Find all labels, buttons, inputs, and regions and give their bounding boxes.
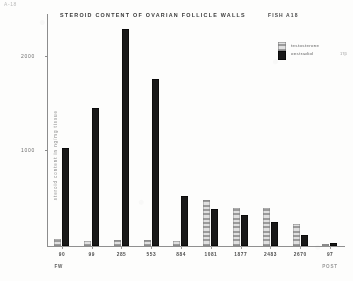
bar-oestradiol bbox=[173, 241, 180, 246]
bar-group bbox=[256, 14, 286, 246]
bar-oestradiol bbox=[203, 200, 210, 246]
x-tick bbox=[181, 246, 182, 249]
x-tick bbox=[62, 246, 63, 249]
x-tick-label: 285 bbox=[107, 252, 137, 257]
bar-group bbox=[315, 14, 345, 246]
x-tick-label: 2483 bbox=[256, 252, 286, 257]
bar-group bbox=[226, 14, 256, 246]
x-tick-label: 1877 bbox=[226, 252, 256, 257]
bar-group bbox=[166, 14, 196, 246]
corner-mark: A-18 bbox=[4, 1, 38, 7]
bar-oestradiol bbox=[84, 241, 91, 246]
bar-oestradiol bbox=[54, 239, 61, 246]
x-axis-sub-note: POST bbox=[315, 264, 345, 269]
plot-area: steroid content in ng/mg tissue bbox=[47, 14, 345, 247]
x-tick bbox=[121, 246, 122, 249]
bar-oestradiol bbox=[263, 208, 270, 246]
figure-root: A-18 STEROID CONTENT OF OVARIAN FOLLICLE… bbox=[0, 0, 353, 281]
bar-testosterone bbox=[122, 29, 129, 246]
bar-group bbox=[107, 14, 137, 246]
bar-testosterone bbox=[62, 148, 69, 246]
bar-group bbox=[136, 14, 166, 246]
bar-testosterone bbox=[271, 222, 278, 246]
x-tick bbox=[241, 246, 242, 249]
bar-testosterone bbox=[92, 108, 99, 246]
x-tick bbox=[300, 246, 301, 249]
x-tick-label: 884 bbox=[166, 252, 196, 257]
bar-testosterone bbox=[241, 215, 248, 246]
x-axis-title: FW bbox=[44, 264, 74, 269]
bar-group bbox=[285, 14, 315, 246]
bar-group bbox=[196, 14, 226, 246]
x-tick-label: 2670 bbox=[285, 252, 315, 257]
x-tick bbox=[330, 246, 331, 249]
bar-oestradiol bbox=[322, 244, 329, 246]
bar-testosterone bbox=[181, 196, 188, 246]
bar-oestradiol bbox=[144, 240, 151, 246]
x-tick-label: 97 bbox=[315, 252, 345, 257]
x-tick-label: 553 bbox=[136, 252, 166, 257]
x-tick bbox=[92, 246, 93, 249]
bar-group bbox=[77, 14, 107, 246]
bar-testosterone bbox=[330, 243, 337, 246]
x-tick-label: 99 bbox=[77, 252, 107, 257]
x-tick bbox=[211, 246, 212, 249]
x-tick bbox=[151, 246, 152, 249]
bar-testosterone bbox=[211, 209, 218, 246]
bar-testosterone bbox=[301, 235, 308, 246]
x-tick-label: 90 bbox=[47, 252, 77, 257]
bar-oestradiol bbox=[114, 240, 121, 246]
x-tick-label: 1081 bbox=[196, 252, 226, 257]
bar-oestradiol bbox=[293, 224, 300, 246]
x-tick bbox=[270, 246, 271, 249]
bar-oestradiol bbox=[233, 208, 240, 246]
bar-group bbox=[47, 14, 77, 246]
bar-testosterone bbox=[152, 79, 159, 246]
